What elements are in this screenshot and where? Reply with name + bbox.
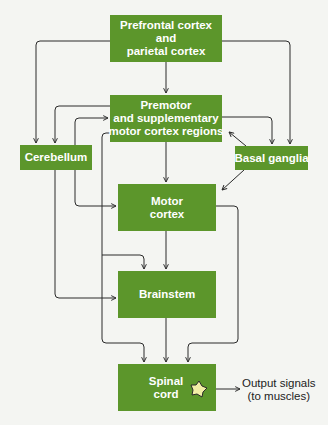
output-label-line: Output signals [242,377,316,390]
neuron-icon [0,0,328,425]
motor-control-diagram: Prefrontal cortex and parietal cortex Pr… [0,0,328,425]
output-signals-label: Output signals (to muscles) [242,377,316,403]
output-label-line: (to muscles) [242,390,316,403]
